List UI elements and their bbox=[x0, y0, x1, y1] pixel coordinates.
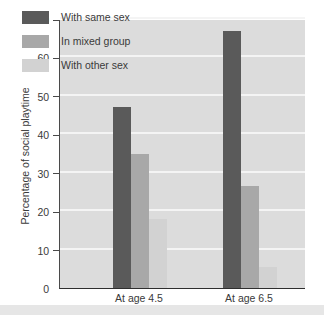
y-axis-tick-label: 0 bbox=[43, 283, 49, 295]
footer-band bbox=[0, 305, 324, 315]
legend-swatch-1 bbox=[22, 11, 49, 24]
y-axis-tick-label: 10 bbox=[38, 245, 49, 257]
gridline bbox=[60, 94, 305, 96]
y-axis-tick-label: 30 bbox=[38, 168, 49, 180]
chart-legend: With same sexIn mixed groupWith other se… bbox=[22, 5, 192, 77]
legend-item: With other sex bbox=[22, 53, 192, 77]
gridline bbox=[60, 132, 305, 134]
bar-1-group-1 bbox=[113, 107, 131, 288]
legend-label: With other sex bbox=[61, 59, 128, 71]
gridline bbox=[60, 209, 305, 211]
legend-swatch-3 bbox=[22, 59, 49, 72]
legend-label: In mixed group bbox=[61, 35, 130, 47]
legend-item: With same sex bbox=[22, 5, 192, 29]
gridline bbox=[60, 171, 305, 173]
y-axis-tick-label: 40 bbox=[38, 129, 49, 141]
bar-chart-figure: 706050403020100 Percentage of social pla… bbox=[0, 0, 324, 315]
y-axis-tick-label: 50 bbox=[38, 91, 49, 103]
y-axis-tick-label: 20 bbox=[38, 206, 49, 218]
gridline bbox=[60, 248, 305, 250]
y-axis-title: Percentage of social playtime bbox=[19, 56, 31, 256]
x-axis-label-1: At age 4.5 bbox=[89, 292, 189, 304]
legend-label: With same sex bbox=[61, 11, 130, 23]
bar-1-group-2 bbox=[223, 31, 241, 288]
legend-item: In mixed group bbox=[22, 29, 192, 53]
legend-swatch-2 bbox=[22, 35, 49, 48]
y-axis-tick: 0 bbox=[0, 283, 59, 295]
bar-2-group-1 bbox=[131, 154, 149, 289]
bar-2-group-2 bbox=[241, 186, 259, 288]
x-axis-label-2: At age 6.5 bbox=[199, 292, 299, 304]
bar-3-group-1 bbox=[149, 219, 167, 288]
bar-3-group-2 bbox=[259, 267, 277, 288]
